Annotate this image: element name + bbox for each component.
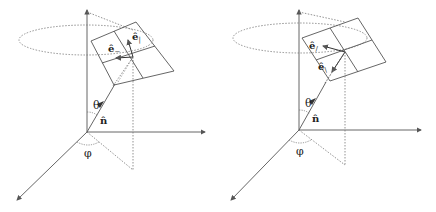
top-dotted-line: [87, 12, 133, 30]
theta-label: θ: [305, 98, 312, 109]
e-minus-label: ê−: [108, 44, 120, 56]
phi-projection: [87, 132, 133, 170]
left-coordinate-diagram: [0, 0, 218, 212]
n-hat-label: n̂: [312, 114, 319, 124]
e-a-label: ê/: [309, 41, 318, 53]
x-axis: [231, 130, 299, 200]
plane-divider-2: [316, 40, 372, 60]
right-coordinate-diagram: [218, 0, 436, 212]
right-diagram-panel: θ φ n̂ ê/ ê\: [218, 0, 436, 212]
phi-label: φ: [296, 146, 304, 157]
phi-label: φ: [84, 148, 92, 159]
n-hat-label: n̂: [100, 116, 107, 126]
e-b-label: ê\: [318, 62, 327, 74]
phi-arc: [289, 140, 311, 143]
left-diagram-panel: θ φ n̂ ê− ê|: [0, 0, 218, 212]
n-dotted-2: [118, 57, 133, 82]
theta-label: θ: [93, 100, 100, 111]
e-par-label: ê|: [132, 32, 141, 44]
x-axis: [17, 132, 87, 200]
top-dotted-line: [299, 12, 345, 22]
phi-projection: [299, 130, 345, 165]
phi-arc: [77, 142, 99, 145]
